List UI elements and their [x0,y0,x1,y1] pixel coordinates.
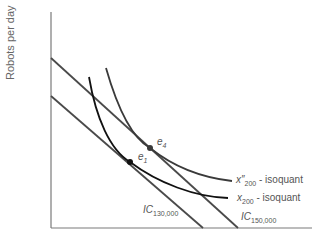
x200pp-label-sub: 200 [245,180,257,187]
e4-point [147,145,153,151]
e4-label: e4 [157,136,166,149]
ic150-label-sub: 150,000 [251,217,276,224]
x200-label-sub: 200 [242,198,254,205]
e1-label: e1 [138,151,147,164]
ic150000-line [51,58,238,228]
ic130-label-sub: 130,000 [153,210,178,217]
e1-label-sub: 1 [144,157,148,164]
ic150-label-main: IC [241,211,251,222]
x200-label-suffix: - isoquant [254,192,301,203]
e1-point [127,159,133,165]
ic150000-label: IC150,000 [241,211,276,224]
x200-double-prime-isoquant-label: x″200 - isoquant [236,174,303,187]
e4-label-sub: 4 [163,142,167,149]
x200pp-label-main: x″ [236,174,245,185]
x200-isoquant-label: x200 - isoquant [237,192,300,205]
y-axis-label: Robots per day [4,5,16,80]
ic130000-label: IC130,000 [143,204,178,217]
x200pp-label-suffix: - isoquant [256,174,303,185]
ic130-label-main: IC [143,204,153,215]
